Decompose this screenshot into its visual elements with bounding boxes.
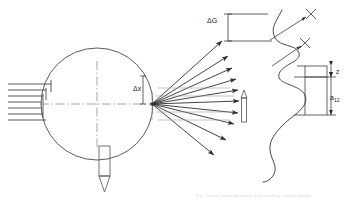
center-crosshair (40, 61, 152, 148)
diagram-canvas: ΔG Δx z a12 Fig. Contact zone geometry a… (0, 0, 352, 207)
a12-label: a12 (330, 94, 339, 101)
a12-subscript: 12 (334, 97, 340, 103)
profile-leader-arrows (270, 17, 306, 66)
delta-x-label: Δx (133, 85, 141, 92)
serpentine-surface-profile (263, 10, 306, 182)
diverging-ray-fan (152, 41, 239, 155)
delta-g-dimension (224, 14, 272, 41)
cross-markers (300, 9, 316, 48)
mid-arrow-pointer (241, 90, 247, 122)
downward-tool-pointer (99, 146, 110, 192)
delta-g-label: ΔG (207, 17, 217, 24)
figure-caption: Fig. Contact zone geometry and resulting… (196, 193, 311, 198)
parallel-incoming-rays (8, 80, 51, 120)
technical-drawing-svg (0, 0, 352, 207)
z-label: z (336, 68, 339, 75)
